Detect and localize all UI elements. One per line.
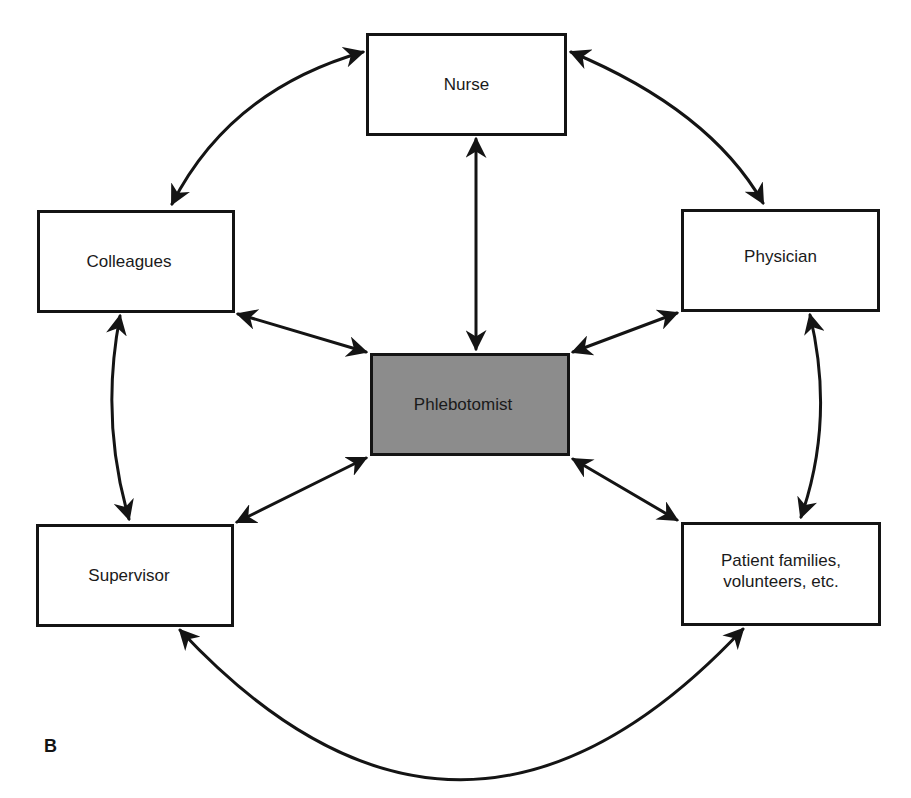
communication-network-diagram: Nurse Colleagues Physician Phlebotomist … — [0, 0, 911, 798]
edge-physician-patients — [801, 315, 821, 517]
node-physician: Physician — [681, 209, 880, 312]
node-nurse-label: Nurse — [444, 74, 489, 95]
edge-colleagues-supervisor — [112, 316, 129, 519]
node-colleagues-label: Colleagues — [86, 251, 171, 272]
node-patient-families: Patient families, volunteers, etc. — [681, 522, 881, 626]
edge-patients-phlebotomist — [573, 459, 677, 520]
node-supervisor-label: Supervisor — [88, 565, 169, 586]
edge-colleagues-phlebotomist — [238, 314, 366, 352]
node-supervisor: Supervisor — [36, 524, 234, 627]
edge-supervisor-phlebotomist — [237, 458, 366, 522]
node-nurse: Nurse — [366, 33, 567, 136]
node-physician-label: Physician — [744, 246, 817, 267]
edge-physician-phlebotomist — [573, 313, 677, 352]
figure-label: B — [44, 736, 57, 757]
edge-nurse-colleagues — [172, 52, 363, 204]
node-patient-families-label: Patient families, volunteers, etc. — [721, 550, 841, 593]
node-colleagues: Colleagues — [37, 210, 235, 313]
edge-nurse-physician — [571, 52, 763, 203]
edge-supervisor-patients — [180, 629, 743, 780]
node-phlebotomist-label: Phlebotomist — [414, 394, 512, 415]
node-phlebotomist: Phlebotomist — [370, 353, 570, 456]
